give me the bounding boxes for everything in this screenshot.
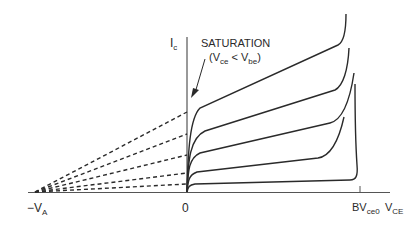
va-sub: A	[42, 208, 47, 217]
breakdown-label: BVce0	[352, 201, 380, 213]
cond-open: (V	[209, 51, 220, 63]
ic-sub: c	[173, 43, 177, 52]
saturation-title: SATURATION	[201, 37, 270, 49]
cond-sub-ce: ce	[220, 57, 228, 66]
cond-mid: < V	[228, 51, 248, 63]
cond-close: )	[257, 51, 261, 63]
va-main: −V	[27, 201, 42, 215]
cond-sub-be: be	[248, 57, 257, 66]
origin-label: 0	[182, 201, 189, 215]
characteristics-plot	[0, 0, 416, 225]
early-extrapolation-lines	[35, 112, 187, 192]
y-axis-label: Ic	[170, 36, 177, 50]
saturation-arrow	[191, 59, 205, 98]
curve-ib1	[187, 84, 357, 192]
vce-sub: CE	[392, 207, 403, 216]
x-axis-label: VCE	[385, 201, 403, 213]
curve-ib3	[187, 73, 354, 192]
saturation-condition: (Vce < Vbe)	[209, 51, 261, 63]
bv-sub: ce0	[367, 207, 380, 216]
early-voltage-label: −VA	[27, 201, 47, 215]
bv-main: BV	[352, 201, 367, 213]
